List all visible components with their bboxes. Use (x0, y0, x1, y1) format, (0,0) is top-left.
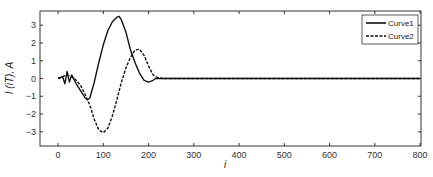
legend-label-curve1: Curve1 (388, 19, 414, 28)
y-axis-label: I (iT), A (4, 61, 15, 94)
x-tick-label: 600 (322, 150, 337, 160)
x-tick-label: 800 (413, 150, 428, 160)
x-tick-label: 400 (232, 150, 247, 160)
y-tick-label: 2 (31, 38, 36, 48)
y-tick-label: 0 (31, 74, 36, 84)
y-tick-label: −3 (26, 127, 36, 137)
x-tick-label: 200 (141, 150, 156, 160)
x-tick-label: 300 (186, 150, 201, 160)
legend-label-curve2: Curve2 (388, 32, 414, 41)
legend: Curve1 Curve2 (362, 15, 418, 44)
x-tick-label: 0 (56, 150, 61, 160)
x-axis-label: i (224, 159, 227, 170)
y-tick-label: −2 (26, 109, 36, 119)
y-tick-label: −1 (26, 91, 36, 101)
y-tick-label: 1 (31, 56, 36, 66)
x-tick-label: 100 (96, 150, 111, 160)
line-chart: −3−2−10123 0100200300400500600700800 i I… (0, 0, 433, 177)
x-tick-label: 700 (367, 150, 382, 160)
x-tick-label: 500 (277, 150, 292, 160)
y-tick-label: 3 (31, 20, 36, 30)
